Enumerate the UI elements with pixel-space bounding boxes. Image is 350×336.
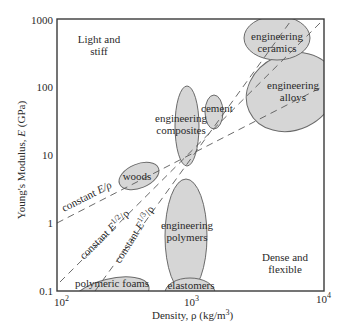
label-woods: woods — [123, 170, 152, 182]
x-tick-10000: 104 — [316, 291, 331, 305]
label-engineering-alloys-2: alloys — [280, 91, 306, 103]
y-tick-10: 10 — [42, 149, 54, 161]
y-tick-1: 1 — [48, 217, 54, 229]
label-engineering-composites-1: engineering — [155, 112, 207, 124]
annotation-dense-and-flexible-1: Dense and — [262, 251, 309, 263]
label-engineering-ceramics-1: engineering — [251, 30, 303, 42]
label-engineering-alloys-1: engineering — [267, 79, 319, 91]
y-tick-0.1: 0.1 — [39, 285, 53, 297]
x-tick-100: 102 — [54, 294, 69, 308]
annotation-dense-and-flexible-2: flexible — [268, 263, 302, 275]
x-tick-1000: 103 — [184, 294, 199, 308]
y-tick-100: 100 — [37, 81, 54, 93]
y-tick-1000: 1000 — [31, 14, 54, 26]
x-axis-label: Density, ρ (kg/m3) — [152, 308, 234, 322]
annotation-light-and-stiff-2: stiff — [90, 45, 108, 57]
label-engineering-composites-2: composites — [156, 124, 206, 136]
label-constant-e-over-rho: constant E/ρ — [59, 178, 113, 213]
label-engineering-polymers-1: engineering — [161, 219, 213, 231]
ashby-chart: 1000 100 10 1 0.1 102 103 104 Density, ρ… — [0, 0, 350, 336]
label-engineering-ceramics-2: ceramics — [257, 42, 296, 54]
annotation-light-and-stiff-1: Light and — [78, 33, 121, 45]
y-axis-label: Young's Modulus, E (GPa) — [15, 101, 28, 220]
label-elastomers: elastomers — [167, 279, 214, 291]
label-polymeric-foams: polymeric foams — [75, 277, 149, 289]
label-engineering-polymers-2: polymers — [167, 231, 208, 243]
